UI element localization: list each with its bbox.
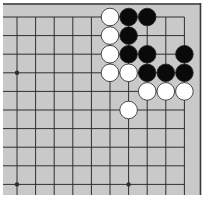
white-stone	[101, 27, 119, 45]
black-stone	[120, 27, 138, 45]
white-stone	[157, 83, 175, 101]
black-stone	[138, 45, 156, 63]
black-stone	[138, 64, 156, 82]
black-stone	[120, 8, 138, 26]
go-board[interactable]	[0, 0, 204, 203]
white-stone	[101, 45, 119, 63]
white-stone	[101, 64, 119, 82]
star-point	[15, 182, 19, 186]
white-stone	[120, 64, 138, 82]
star-point	[15, 71, 19, 75]
white-stone	[138, 83, 156, 101]
black-stone	[120, 45, 138, 63]
black-stone	[176, 64, 194, 82]
white-stone	[176, 83, 194, 101]
white-stone	[101, 8, 119, 26]
star-point	[126, 182, 130, 186]
black-stone	[176, 45, 194, 63]
black-stone	[157, 64, 175, 82]
white-stone	[120, 101, 138, 119]
black-stone	[138, 8, 156, 26]
